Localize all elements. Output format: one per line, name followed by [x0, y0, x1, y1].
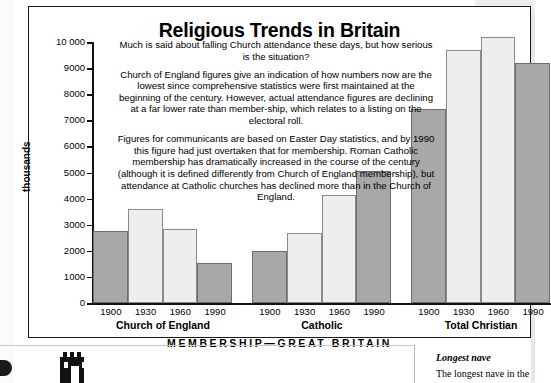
bar-church-of-england-1960 — [163, 229, 198, 303]
y-axis-tick — [87, 303, 93, 305]
sidebar-body-text: The longest nave in the — [436, 368, 531, 380]
x-axis-tick-label: 1960 — [481, 306, 516, 317]
article-paragraph: Much is said about falling Church attend… — [117, 39, 435, 62]
y-axis-tick-label: 4000 — [29, 193, 85, 204]
bar-total-christian-1930 — [446, 50, 481, 303]
y-axis-tick-label: 0 — [29, 297, 85, 308]
section-divider — [0, 345, 414, 346]
x-axis-tick-label: 1900 — [412, 306, 447, 317]
y-axis-tick-label: 8000 — [29, 88, 85, 99]
bar-catholic-1900 — [252, 251, 287, 303]
x-axis-tick-label: 1960 — [163, 306, 198, 317]
y-axis-tick-label: 6000 — [29, 140, 85, 151]
bar-total-christian-1960 — [481, 37, 516, 303]
x-axis-group-label: Church of England — [94, 319, 233, 331]
column-rule — [414, 345, 415, 383]
x-axis-tick-label: 1990 — [198, 306, 233, 317]
x-axis-tick-label: 1960 — [322, 306, 357, 317]
x-axis-group-label: Catholic — [253, 319, 392, 331]
x-axis-tick-label: 1900 — [253, 306, 288, 317]
x-axis-tick-label: 1930 — [446, 306, 481, 317]
y-axis-tick-label: 9000 — [29, 62, 85, 73]
x-axis-tick-label: 1930 — [128, 306, 163, 317]
article-paragraph: Church of England figures give an indica… — [117, 69, 435, 127]
x-axis-tick-label: 1990 — [516, 306, 551, 317]
chart-footer-label: MEMBERSHIP—GREAT BRITAIN — [29, 337, 530, 349]
y-axis-labels: 10 0009000800070006000500040003000200010… — [29, 7, 85, 383]
y-axis-tick-label: 3000 — [29, 219, 85, 230]
y-axis-tick-label: 2000 — [29, 245, 85, 256]
y-axis-tick-label: 5000 — [29, 167, 85, 178]
bar-church-of-england-1990 — [197, 263, 232, 303]
y-axis-tick-label: 1000 — [29, 271, 85, 282]
y-axis-tick-label: 7000 — [29, 114, 85, 125]
x-axis-tick-label: 1930 — [287, 306, 322, 317]
article-paragraph: Figures for communicants are based on Ea… — [117, 133, 435, 203]
bar-total-christian-1990 — [515, 63, 550, 303]
x-axis-tick-label: 1900 — [94, 306, 129, 317]
article-text-block: Much is said about falling Church attend… — [117, 39, 435, 209]
bar-catholic-1930 — [287, 233, 322, 303]
x-axis-line — [92, 303, 551, 305]
y-axis-tick-label: 10 000 — [29, 36, 85, 47]
bar-church-of-england-1930 — [128, 209, 163, 303]
church-tower-icon — [55, 348, 95, 383]
bar-church-of-england-1900 — [93, 231, 128, 303]
x-axis-group-label: Total Christian — [412, 319, 551, 331]
x-axis-tick-label: 1990 — [357, 306, 392, 317]
page-left-shade — [0, 0, 14, 383]
sidebar-heading: Longest nave — [436, 352, 491, 363]
chart-panel: Religious Trends in Britain 10 000900080… — [28, 6, 531, 338]
y-axis-title: thousands — [21, 141, 32, 192]
bar-catholic-1960 — [322, 195, 357, 303]
